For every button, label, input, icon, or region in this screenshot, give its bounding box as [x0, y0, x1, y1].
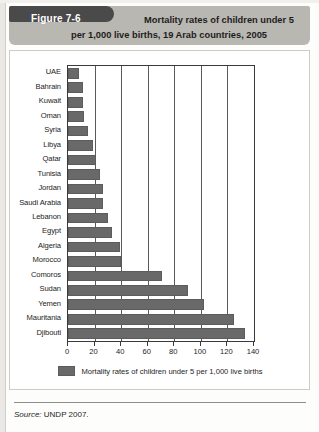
- xtick-label-40: 40: [116, 347, 124, 356]
- xtick-mark-40: [120, 342, 121, 346]
- y-label-jordan: Jordan: [38, 183, 61, 192]
- y-label-libya: Libya: [43, 140, 61, 149]
- y-label-tunisia: Tunisia: [38, 169, 62, 178]
- xtick-label-120: 120: [220, 347, 233, 356]
- y-label-lebanon: Lebanon: [32, 212, 61, 221]
- bar-syria: [68, 126, 88, 137]
- xtick-mark-140: [253, 342, 254, 346]
- xtick-mark-60: [147, 342, 148, 346]
- y-label-oman: Oman: [41, 111, 61, 120]
- y-label-djibouti: Djibouti: [36, 328, 61, 337]
- y-label-kuwait: Kuwait: [39, 96, 61, 105]
- xtick-label-100: 100: [194, 347, 207, 356]
- y-label-bahrain: Bahrain: [36, 82, 61, 91]
- xtick-label-20: 20: [89, 347, 97, 356]
- xtick-mark-20: [94, 342, 95, 346]
- x-axis-ticks: 020406080100120140: [67, 342, 255, 358]
- bar-saudi-arabia: [68, 198, 103, 209]
- bar-yemen: [68, 299, 204, 310]
- bar-algeria: [68, 242, 120, 253]
- y-label-morocco: Morocco: [33, 255, 61, 264]
- bar-tunisia: [68, 169, 100, 180]
- xtick-label-0: 0: [65, 347, 69, 356]
- y-label-qatar: Qatar: [43, 154, 62, 163]
- y-label-sudan: Sudan: [40, 284, 61, 293]
- figure-number-label: Figure 7-6: [31, 13, 81, 24]
- bar-uae: [68, 68, 79, 79]
- xtick-label-80: 80: [169, 347, 177, 356]
- figure-number-tab: Figure 7-6: [9, 6, 114, 22]
- figure-container: Mortality rates of children under 5 per …: [0, 0, 319, 432]
- y-label-comoros: Comoros: [31, 270, 61, 279]
- legend-color-swatch: [58, 366, 75, 376]
- y-axis-category-labels: UAEBahrainKuwaitOmanSyriaLibyaQatarTunis…: [10, 65, 64, 342]
- bar-jordan: [68, 184, 103, 195]
- page-edge-decoration: [0, 0, 6, 432]
- xtick-label-140: 140: [247, 347, 260, 356]
- y-label-uae: UAE: [46, 67, 61, 76]
- y-label-yemen: Yemen: [38, 299, 61, 308]
- plot-area: [67, 65, 255, 342]
- y-label-syria: Syria: [44, 125, 61, 134]
- xtick-mark-100: [200, 342, 201, 346]
- bar-oman: [68, 111, 84, 122]
- bar-egypt: [68, 227, 112, 238]
- bar-mauritania: [68, 314, 234, 325]
- source-divider: [14, 402, 306, 403]
- y-label-mauritania: Mauritania: [27, 313, 61, 322]
- chart-legend: Mortality rates of children under 5 per …: [10, 363, 311, 379]
- page-edge-top-decoration: [0, 0, 319, 3]
- bar-morocco: [68, 256, 121, 267]
- figure-title-line-1: Mortality rates of children under 5: [121, 14, 317, 27]
- xtick-mark-0: [67, 342, 68, 346]
- bar-djibouti: [68, 328, 245, 339]
- source-text-value: UNDP 2007.: [44, 410, 89, 419]
- bar-comoros: [68, 271, 162, 282]
- bar-sudan: [68, 285, 188, 296]
- xtick-label-60: 60: [142, 347, 150, 356]
- xtick-mark-80: [173, 342, 174, 346]
- bar-lebanon: [68, 213, 108, 224]
- figure-title-line-2: per 1,000 live births, 19 Arab countries…: [29, 29, 309, 42]
- y-label-egypt: Egypt: [42, 226, 61, 235]
- bar-bahrain: [68, 82, 83, 93]
- bar-kuwait: [68, 97, 83, 108]
- bar-qatar: [68, 155, 96, 166]
- y-label-saudi-arabia: Saudi Arabia: [19, 198, 61, 207]
- bar-series: [68, 66, 254, 341]
- chart-card: UAEBahrainKuwaitOmanSyriaLibyaQatarTunis…: [9, 50, 310, 390]
- source-prefix: Source:: [14, 410, 42, 419]
- xtick-mark-120: [226, 342, 227, 346]
- legend-label: Mortality rates of children under 5 per …: [81, 367, 262, 376]
- bar-libya: [68, 140, 93, 151]
- y-label-algeria: Algeria: [38, 241, 61, 250]
- source-note: Source: UNDP 2007.: [14, 410, 89, 419]
